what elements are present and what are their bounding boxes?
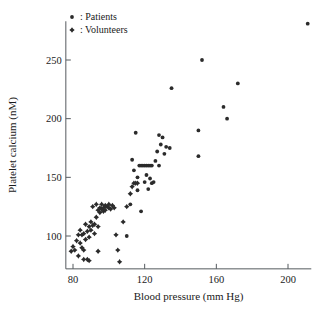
- data-point-patient: [197, 154, 201, 158]
- axes-group: [66, 21, 311, 269]
- scatter-plot-figure: 10015020025080120160200Blood pressure (m…: [0, 0, 325, 319]
- data-point-patient: [197, 129, 201, 133]
- data-point-patient: [161, 136, 165, 140]
- data-point-volunteer: [77, 227, 82, 232]
- y-tick-label: 100: [46, 231, 62, 242]
- data-point-patient: [136, 188, 140, 192]
- legend-marker-volunteers: [69, 27, 74, 32]
- data-point-patient: [155, 150, 159, 154]
- y-tick-label: 250: [46, 55, 62, 66]
- data-point-patient: [157, 133, 161, 137]
- data-point-patient: [132, 168, 136, 172]
- x-axis-title: Blood pressure (mm Hg): [134, 290, 244, 303]
- legend-label-volunteers: : Volunteers: [80, 24, 128, 35]
- data-point-volunteer: [76, 253, 81, 258]
- data-point-patient: [157, 164, 161, 168]
- x-tick-label: 120: [137, 274, 153, 285]
- data-point-volunteer: [92, 231, 97, 236]
- legend-marker-patients: [70, 15, 74, 19]
- data-point-patient: [200, 58, 204, 62]
- data-point-patient: [134, 131, 138, 135]
- data-point-patient: [146, 187, 150, 191]
- series-patients: [125, 22, 310, 238]
- x-tick-label: 160: [208, 274, 224, 285]
- data-point-patient: [306, 22, 310, 26]
- chart-canvas: 10015020025080120160200Blood pressure (m…: [0, 0, 325, 319]
- data-point-patient: [143, 180, 147, 184]
- data-point-patient: [159, 143, 163, 147]
- data-point-volunteer: [128, 191, 133, 196]
- data-point-patient: [154, 159, 158, 163]
- x-tick-label: 80: [68, 274, 79, 285]
- data-point-patient: [222, 105, 226, 109]
- legend-label-patients: : Patients: [80, 11, 117, 22]
- data-point-volunteer: [94, 215, 99, 220]
- data-point-patient: [139, 209, 143, 213]
- data-point-patient: [136, 175, 140, 179]
- series-volunteers: [69, 181, 141, 265]
- data-point-volunteer: [113, 232, 118, 237]
- data-point-patient: [162, 152, 166, 156]
- data-point-volunteer: [115, 247, 120, 252]
- x-axis-ticks: 80120160200: [68, 264, 296, 285]
- y-axis-ticks: 100150200250: [46, 55, 71, 242]
- data-point-patient: [170, 86, 174, 90]
- data-point-patient: [152, 180, 156, 184]
- data-point-patient: [145, 173, 149, 177]
- data-point-volunteer: [95, 249, 100, 254]
- data-point-patient: [225, 117, 229, 121]
- y-tick-label: 150: [46, 172, 62, 183]
- data-point-patient: [164, 145, 168, 149]
- data-point-patient: [128, 202, 132, 206]
- data-point-patient: [130, 158, 134, 162]
- legend: : Patients: Volunteers: [69, 11, 127, 35]
- data-point-volunteer: [117, 259, 122, 264]
- data-point-volunteer: [120, 219, 125, 224]
- x-tick-label: 200: [280, 274, 296, 285]
- data-point-patient: [125, 234, 129, 238]
- data-point-patient: [168, 146, 172, 150]
- y-axis-title: Platelet calcium (nM): [6, 97, 19, 193]
- data-point-patient: [148, 177, 152, 181]
- y-tick-label: 200: [46, 113, 62, 124]
- data-point-patient: [236, 82, 240, 86]
- data-point-patient: [150, 164, 154, 168]
